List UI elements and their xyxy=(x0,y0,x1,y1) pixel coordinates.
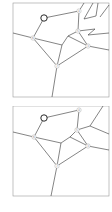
panel-frame xyxy=(13,106,109,196)
graph-edges xyxy=(13,3,109,97)
node-label: 7 xyxy=(56,164,58,168)
node-label: 6 xyxy=(32,36,34,40)
node-label: 6 xyxy=(33,135,35,139)
node-label: 7 xyxy=(56,64,58,68)
graph-edges xyxy=(13,106,109,196)
node-label: 4 xyxy=(78,108,80,112)
node-label: 5 xyxy=(76,128,78,132)
diagram-panel-top: 4 6 5 3 7 xyxy=(0,0,112,106)
node-label: 4 xyxy=(78,9,80,13)
node-label: 3 xyxy=(87,144,89,148)
highlighted-node xyxy=(41,115,47,121)
node-label: 3 xyxy=(87,44,89,48)
graph-nodes xyxy=(31,9,90,68)
highlighted-node xyxy=(41,15,47,21)
node-label: 5 xyxy=(77,29,79,33)
voronoi-graph-top: 4 6 5 3 7 xyxy=(0,0,112,106)
diagram-panel-bottom: 4 6 5 3 7 xyxy=(0,106,112,212)
voronoi-graph-bottom: 4 6 5 3 7 xyxy=(0,106,112,212)
